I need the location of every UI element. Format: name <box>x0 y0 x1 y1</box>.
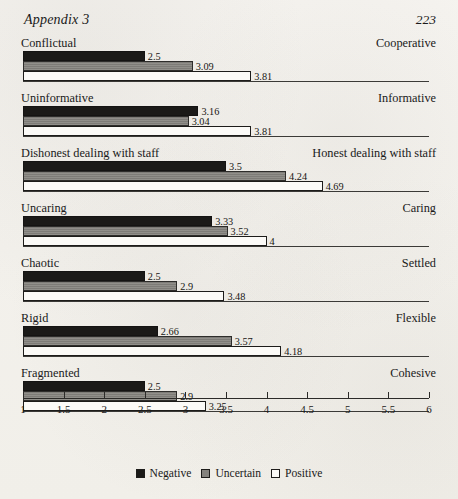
group-label-right: Flexible <box>396 311 436 326</box>
group-label-right: Cohesive <box>390 366 436 381</box>
bar-negative <box>23 51 145 61</box>
group-label-left: Conflictual <box>21 36 76 51</box>
bar-uncertain <box>23 336 232 346</box>
group-baseline <box>23 136 429 137</box>
x-axis-tick-label: 4 <box>264 403 270 415</box>
x-axis-tick-label: 5.5 <box>382 403 396 415</box>
group-bars: 3.163.043.81 <box>0 106 458 140</box>
group-bars: 2.52.93.48 <box>0 271 458 305</box>
bar-uncertain <box>23 116 189 126</box>
chart-legend: NegativeUncertainPositive <box>0 468 458 479</box>
bar-negative <box>23 326 158 336</box>
page-header: Appendix 3 223 <box>24 12 436 30</box>
x-axis-tick <box>429 392 430 398</box>
group-label-right: Informative <box>378 91 436 106</box>
group-labels: FragmentedCohesive <box>21 366 436 381</box>
group-label-left: Rigid <box>21 311 48 326</box>
bar-positive <box>23 71 251 81</box>
negative-swatch-icon <box>136 469 145 478</box>
legend-item: Uncertain <box>201 468 261 479</box>
bar-negative <box>23 381 145 391</box>
x-axis-tick-label: 3 <box>183 403 189 415</box>
group-label-right: Caring <box>403 201 436 216</box>
group-labels: UncaringCaring <box>21 201 436 216</box>
group-labels: Dishonest dealing with staffHonest deali… <box>21 146 436 161</box>
group-label-left: Uncaring <box>21 201 67 216</box>
x-axis-tick-label: 1 <box>20 403 26 415</box>
group-label-left: Chaotic <box>21 256 59 271</box>
group-label-right: Settled <box>402 256 436 271</box>
bar-positive <box>23 291 224 301</box>
x-axis-tick-label: 6 <box>426 403 432 415</box>
group-bars: 3.54.244.69 <box>0 161 458 195</box>
x-axis-tick-label: 2.5 <box>138 403 152 415</box>
bar-positive <box>23 181 323 191</box>
legend-label: Positive <box>285 468 322 479</box>
legend-item: Positive <box>271 468 322 479</box>
scanned-page: Appendix 3 223 ConflictualCooperative2.5… <box>0 0 458 499</box>
legend-label: Uncertain <box>215 468 261 479</box>
x-axis-tick <box>64 392 65 398</box>
bar-uncertain <box>23 171 286 181</box>
group-baseline <box>23 246 429 247</box>
bar-negative <box>23 271 145 281</box>
x-axis-tick-label: 2 <box>101 403 107 415</box>
group-baseline <box>23 356 429 357</box>
bar-positive <box>23 126 251 136</box>
group-labels: RigidFlexible <box>21 311 436 326</box>
x-axis-line <box>23 398 429 399</box>
bar-negative <box>23 216 212 226</box>
group-labels: UninformativeInformative <box>21 91 436 106</box>
group-label-left: Fragmented <box>21 366 80 381</box>
legend-item: Negative <box>136 468 192 479</box>
x-axis-tick-label: 4.5 <box>300 403 314 415</box>
bar-negative <box>23 106 198 116</box>
x-axis-tick <box>23 392 24 398</box>
x-axis-tick <box>145 392 146 398</box>
page-number: 223 <box>416 12 436 28</box>
bar-positive <box>23 346 281 356</box>
group-baseline <box>23 81 429 82</box>
group-label-left: Uninformative <box>21 91 93 106</box>
group-baseline <box>23 301 429 302</box>
group-labels: ChaoticSettled <box>21 256 436 271</box>
legend-label: Negative <box>150 468 192 479</box>
x-axis: 11.522.533.544.555.56 <box>0 398 458 432</box>
x-axis-tick-label: 3.5 <box>219 403 233 415</box>
bar-uncertain <box>23 61 193 71</box>
x-axis-tick <box>104 392 105 398</box>
bar-uncertain <box>23 226 228 236</box>
group-label-left: Dishonest dealing with staff <box>21 146 159 161</box>
group-bars: 3.333.524 <box>0 216 458 250</box>
x-axis-tick <box>307 392 308 398</box>
group-bars: 2.53.093.81 <box>0 51 458 85</box>
x-axis-tick-label: 1.5 <box>57 403 71 415</box>
bar-negative <box>23 161 226 171</box>
group-labels: ConflictualCooperative <box>21 36 436 51</box>
x-axis-tick <box>348 392 349 398</box>
group-baseline <box>23 191 429 192</box>
x-axis-tick <box>185 392 186 398</box>
group-bars: 2.663.574.18 <box>0 326 458 360</box>
x-axis-tick-label: 5 <box>345 403 351 415</box>
x-axis-tick <box>226 392 227 398</box>
bar-uncertain <box>23 281 177 291</box>
x-axis-tick <box>267 392 268 398</box>
group-label-right: Honest dealing with staff <box>312 146 436 161</box>
positive-swatch-icon <box>271 469 280 478</box>
x-axis-tick <box>388 392 389 398</box>
group-label-right: Cooperative <box>376 36 436 51</box>
bar-positive <box>23 236 267 246</box>
uncertain-swatch-icon <box>201 469 210 478</box>
appendix-title: Appendix 3 <box>24 12 89 28</box>
